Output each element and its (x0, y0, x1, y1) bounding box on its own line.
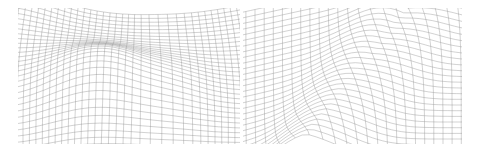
left-mesh-graphic (18, 8, 240, 144)
right-mesh-panel (243, 8, 462, 144)
mesh-lines (18, 8, 240, 144)
right-mesh-graphic (243, 8, 462, 144)
mesh-lines (243, 8, 462, 144)
left-mesh-panel (18, 8, 240, 144)
